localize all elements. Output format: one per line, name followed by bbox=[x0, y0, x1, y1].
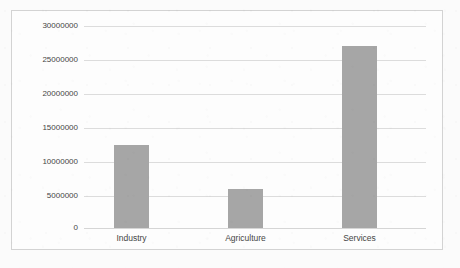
y-axis-tick-label: 20000000 bbox=[14, 90, 78, 98]
plot-area: 30000000 25000000 20000000 15000000 1000… bbox=[12, 11, 444, 251]
y-axis-tick-label: 30000000 bbox=[14, 22, 78, 30]
bar-services[interactable] bbox=[342, 46, 377, 228]
x-axis-label-agriculture: Agriculture bbox=[225, 233, 266, 243]
x-axis-label-services: Services bbox=[343, 233, 376, 243]
y-axis-tick-label: 5000000 bbox=[14, 192, 78, 200]
gridline-30000000 bbox=[84, 26, 426, 27]
y-axis-tick-label: 15000000 bbox=[14, 124, 78, 132]
chart-frame: 30000000 25000000 20000000 15000000 1000… bbox=[11, 10, 443, 250]
y-axis-tick-label: 0 bbox=[14, 224, 78, 232]
x-axis-label-industry: Industry bbox=[116, 233, 146, 243]
y-axis-tick-label: 25000000 bbox=[14, 56, 78, 64]
bar-industry[interactable] bbox=[114, 145, 149, 228]
bar-agriculture[interactable] bbox=[228, 189, 263, 228]
y-axis-tick-label: 10000000 bbox=[14, 158, 78, 166]
gridline-0 bbox=[84, 228, 426, 229]
